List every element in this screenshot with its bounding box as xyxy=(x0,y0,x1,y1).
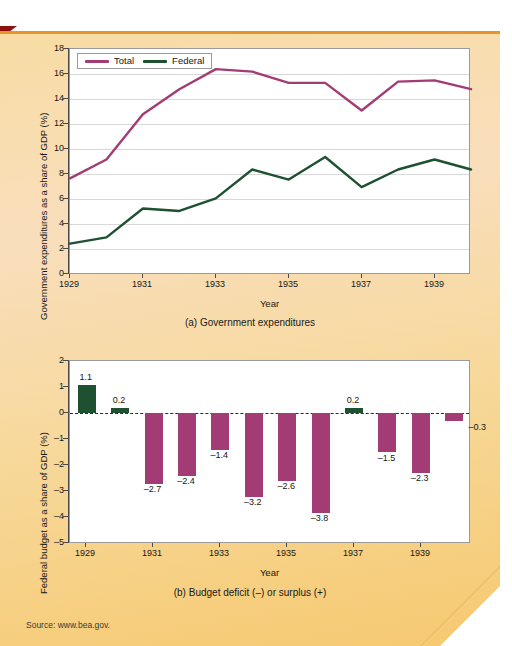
figure-a-x-tickmark-1933 xyxy=(215,274,216,278)
figure-b-bar-label-1932: –2.4 xyxy=(166,477,206,486)
figure-b-x-tickmark-1939 xyxy=(420,543,421,547)
figure-a-y-tickmark-2 xyxy=(63,248,68,249)
figure-b-x-tickmark-1931 xyxy=(152,543,153,547)
figure-b-y-tickmark-neg2 xyxy=(63,464,68,465)
figure-b-bar-label-1933: –1.4 xyxy=(199,451,239,460)
figure-b-bar-label-1940: –0.3 xyxy=(457,423,497,432)
figure-a-y-tick-12: 12 xyxy=(42,119,64,128)
figure-b-bar-label-1935: –2.6 xyxy=(266,482,306,491)
figure-b-x-axis-title: Year xyxy=(69,567,470,578)
figure-a-y-tickmark-18 xyxy=(63,48,68,49)
figure-a-y-tick-10: 10 xyxy=(42,144,64,153)
legend-item-total: Total xyxy=(85,56,134,66)
figure-b-x-tick-1931: 1931 xyxy=(132,549,172,558)
figure-b-x-tick-1937: 1937 xyxy=(333,549,373,558)
figure-a-y-tick-6: 6 xyxy=(42,194,64,203)
figure-b-x-tick-1929: 1929 xyxy=(65,549,105,558)
figure-b-y-tick-neg3: –3 xyxy=(38,486,64,495)
figure-b-y-tickmark-1 xyxy=(63,386,68,387)
figure-b-bar-label-1937: 0.2 xyxy=(333,396,373,405)
figure-a-y-tick-14: 14 xyxy=(42,94,64,103)
figure-a-series-lines xyxy=(70,49,471,275)
figure-a-caption: (a) Government expenditures xyxy=(0,317,500,328)
figure-a-legend: Total Federal xyxy=(77,53,212,69)
legend-swatch-total-icon xyxy=(85,60,109,63)
figure-b-y-tickmark-neg1 xyxy=(63,438,68,439)
figure-a-x-tick-1929: 1929 xyxy=(49,280,89,289)
figure-a-y-tick-0: 0 xyxy=(42,269,64,278)
figure-a-y-tickmark-10 xyxy=(63,148,68,149)
source-note: Source: www.bea.gov. xyxy=(26,620,110,630)
figure-b-x-tick-1933: 1933 xyxy=(199,549,239,558)
legend-swatch-federal-icon xyxy=(143,60,167,63)
figure-b-y-tickmark-neg3 xyxy=(63,490,68,491)
figure-b-bar-label-1929: 1.1 xyxy=(66,373,106,382)
figure-a-y-tick-8: 8 xyxy=(42,169,64,178)
figure-a-y-tickmark-16 xyxy=(63,73,68,74)
figure-a-line-federal xyxy=(70,157,471,244)
figure-b-caption: (b) Budget deficit (–) or surplus (+) xyxy=(0,587,500,598)
figure-b-y-tick-1: 1 xyxy=(42,382,64,391)
figure-a-x-tick-1935: 1935 xyxy=(268,280,308,289)
figure-b-x-tick-1939: 1939 xyxy=(400,549,440,558)
figure-b-bar-label-1936: –3.8 xyxy=(300,514,340,523)
figure-a-y-tickmark-4 xyxy=(63,223,68,224)
figure-b-bar-label-1939: –2.3 xyxy=(400,474,440,483)
figure-b-y-tick-neg2: –2 xyxy=(38,460,64,469)
figure-a-y-tick-16: 16 xyxy=(42,69,64,78)
figure-a-x-tickmark-1937 xyxy=(361,274,362,278)
figure-a-x-tickmark-1939 xyxy=(434,274,435,278)
figure-page: Government expenditures as a share of GD… xyxy=(0,0,512,646)
figure-b-x-tickmark-1929 xyxy=(85,543,86,547)
figure-b-bar-label-1934: –3.2 xyxy=(233,498,273,507)
figure-b-x-tickmark-1933 xyxy=(219,543,220,547)
figure-b-y-tickmark-neg4 xyxy=(63,516,68,517)
figure-b-y-tick-2: 2 xyxy=(42,356,64,365)
figure-a-x-tickmark-1929 xyxy=(69,274,70,278)
figure-a-x-tick-1939: 1939 xyxy=(414,280,454,289)
figure-b-y-tickmark-2 xyxy=(63,360,68,361)
figure-a-y-tick-2: 2 xyxy=(42,244,64,253)
figure-a-y-tickmark-8 xyxy=(63,173,68,174)
figure-b-bar-label-1931: –2.7 xyxy=(133,485,173,494)
figure-b-x-tickmark-1937 xyxy=(353,543,354,547)
figure-a-x-axis-title: Year xyxy=(69,298,470,309)
figure-a-y-tick-4: 4 xyxy=(42,219,64,228)
figure-b-bar-chart: Federal budget as a share of GDP (%) 2 1… xyxy=(0,352,500,612)
figure-a-y-tickmark-12 xyxy=(63,123,68,124)
figure-a-x-tick-1931: 1931 xyxy=(122,280,162,289)
page-top-margin xyxy=(0,0,512,31)
figure-a-y-tick-18: 18 xyxy=(42,44,64,53)
figure-a-y-tickmark-0 xyxy=(63,273,68,274)
figure-b-y-tick-0: 0 xyxy=(42,408,64,417)
figure-b-x-tickmark-1935 xyxy=(286,543,287,547)
figure-b-y-tickmark-neg5 xyxy=(63,542,68,543)
legend-label-federal: Federal xyxy=(172,56,204,66)
figure-a-line-total xyxy=(70,69,471,178)
legend-item-federal: Federal xyxy=(143,56,204,66)
figure-a-x-tickmark-1935 xyxy=(288,274,289,278)
figure-a-x-tick-1933: 1933 xyxy=(195,280,235,289)
figure-b-bar-label-1938: –1.5 xyxy=(366,454,406,463)
figure-a-plot-area xyxy=(69,48,470,274)
figure-a-line-chart: Government expenditures as a share of GD… xyxy=(0,40,500,335)
legend-label-total: Total xyxy=(114,56,134,66)
figure-b-y-tick-neg5: –5 xyxy=(38,538,64,547)
figure-b-y-tickmark-0 xyxy=(63,412,68,413)
figure-a-x-tick-1937: 1937 xyxy=(341,280,381,289)
figure-a-y-tickmark-6 xyxy=(63,198,68,199)
figure-b-bar-label-1930: 0.2 xyxy=(99,396,139,405)
figure-b-x-tick-1935: 1935 xyxy=(266,549,306,558)
figure-b-y-tick-neg1: –1 xyxy=(38,434,64,443)
figure-b-y-tick-neg4: –4 xyxy=(38,512,64,521)
figure-a-y-tickmark-14 xyxy=(63,98,68,99)
figure-a-x-tickmark-1931 xyxy=(142,274,143,278)
